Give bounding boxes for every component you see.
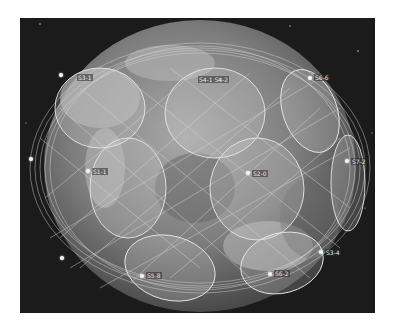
- satellite-marker-11[interactable]: [29, 157, 33, 161]
- satellite-label-4: S1-1: [92, 168, 108, 175]
- satellite-label-7: S3-4: [325, 249, 341, 256]
- satellite-marker-6[interactable]: [345, 159, 349, 163]
- satellite-marker-9[interactable]: [268, 272, 272, 276]
- satellite-marker-7[interactable]: [319, 250, 323, 254]
- satellite-label-2: S4-1 S4-2: [198, 76, 229, 83]
- satellite-label-5: S2-0: [252, 170, 268, 177]
- satellite-marker-8[interactable]: [140, 274, 144, 278]
- satellite-label-8: S5-8: [146, 272, 162, 279]
- globe-illustration: [20, 18, 375, 313]
- satellite-marker-5[interactable]: [246, 171, 250, 175]
- satellite-marker-4[interactable]: [86, 169, 90, 173]
- globe-view-panel[interactable]: S3-1 S4-1 S4-2 S6-6 S1-1 S2-0 S7-2 S3-4 …: [20, 18, 375, 313]
- satellite-label-1: S3-1: [77, 74, 93, 81]
- satellite-marker-10[interactable]: [60, 256, 64, 260]
- satellite-marker-1[interactable]: [59, 73, 63, 77]
- satellite-label-9: S6-2: [274, 270, 290, 277]
- satellite-label-3: S6-6: [314, 74, 330, 81]
- satellite-label-6: S7-2: [351, 158, 367, 165]
- satellite-marker-3[interactable]: [308, 76, 312, 80]
